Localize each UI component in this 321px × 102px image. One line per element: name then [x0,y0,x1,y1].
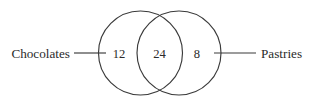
left-set-circle [99,11,183,95]
intersection-count: 24 [153,47,166,61]
right-set-label: Pastries [261,46,302,61]
venn-diagram-canvas: Chocolates Pastries 12 24 8 [0,0,321,102]
right-set-circle [137,11,221,95]
venn-diagram-figure: Chocolates Pastries 12 24 8 [0,0,321,102]
right-only-count: 8 [194,47,200,61]
left-set-label: Chocolates [11,46,70,61]
left-only-count: 12 [113,47,126,61]
